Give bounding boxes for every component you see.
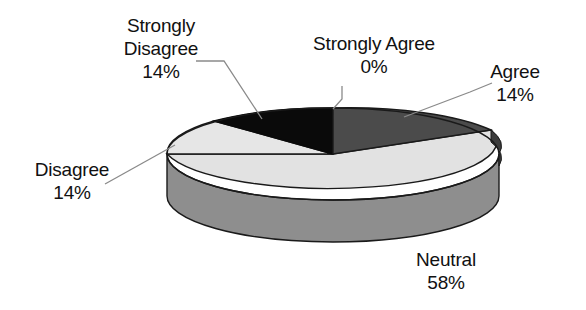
pie-chart-figure: Strongly Disagree 14% Strongly Agree 0% …	[0, 0, 586, 310]
slice-label-strongly-agree: Strongly Agree 0%	[274, 32, 474, 78]
slice-value-strongly-disagree: 14%	[76, 60, 246, 83]
slice-label-strongly-disagree-line2: Disagree	[124, 38, 198, 59]
leader-line-strongly-agree	[333, 86, 342, 109]
slice-label-disagree: Disagree 14%	[2, 158, 142, 204]
slice-value-disagree: 14%	[2, 181, 142, 204]
slice-label-agree-line1: Agree	[490, 61, 540, 82]
slice-value-neutral: 58%	[376, 271, 516, 294]
slice-label-neutral-line1: Neutral	[416, 249, 476, 270]
slice-label-strongly-agree-line1: Strongly Agree	[313, 33, 435, 54]
slice-label-disagree-line1: Disagree	[35, 159, 109, 180]
slice-value-agree: 14%	[460, 83, 570, 106]
slice-label-strongly-disagree: Strongly Disagree 14%	[76, 14, 246, 83]
slice-value-strongly-agree: 0%	[274, 55, 474, 78]
slice-label-neutral: Neutral 58%	[376, 248, 516, 294]
slice-label-agree: Agree 14%	[460, 60, 570, 106]
slice-label-strongly-disagree-line1: Strongly	[127, 15, 195, 36]
